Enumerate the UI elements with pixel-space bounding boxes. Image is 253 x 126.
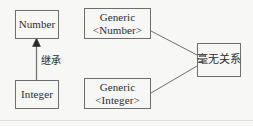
node-unrelated: 毫无关系	[197, 43, 241, 77]
node-integer: Integer	[15, 80, 59, 109]
inheritance-edge-label: 继承	[41, 52, 60, 67]
node-generic-number-label-line1: Generic	[100, 11, 136, 23]
generic-integer-to-unrelated-line	[151, 66, 197, 93]
node-generic-integer-label-line2: <Integer>	[95, 94, 139, 106]
node-integer-label: Integer	[21, 88, 53, 100]
page-scan-line	[0, 120, 253, 121]
node-generic-number: Generic <Number>	[84, 8, 151, 39]
node-generic-integer-label-line1: Generic	[100, 81, 136, 93]
node-generic-number-label-line2: <Number>	[93, 24, 142, 36]
node-unrelated-label: 毫无关系	[197, 54, 240, 66]
node-generic-integer: Generic <Integer>	[84, 78, 151, 109]
node-number: Number	[15, 10, 59, 39]
generic-number-to-unrelated-line	[151, 31, 197, 55]
node-number-label: Number	[19, 18, 56, 30]
diagram-canvas: Number Integer Generic <Number> Generic …	[0, 0, 253, 126]
inheritance-arrowhead-icon	[33, 38, 41, 47]
